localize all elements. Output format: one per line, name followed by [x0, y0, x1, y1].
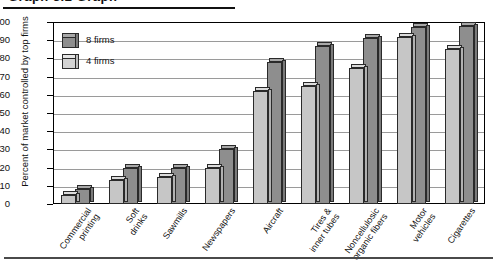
- legend-label-4-firms: 4 firms: [86, 55, 115, 66]
- y-axis-tick-label: 50: [0, 107, 10, 118]
- y-axis-tick-mark: [47, 204, 53, 205]
- bar-group: [341, 22, 389, 204]
- bar-group: [53, 22, 101, 204]
- cube-icon-8-firms: [62, 33, 79, 48]
- y-axis-tick-label: 60: [0, 89, 10, 100]
- bar-4-firms: [349, 68, 364, 205]
- cube-icon-4-firms: [62, 54, 79, 69]
- x-axis-label: Tires & inner tubes: [273, 206, 341, 270]
- y-axis-tick-label: 70: [0, 71, 10, 82]
- bar-4-firms: [445, 49, 460, 204]
- chart-figure: Graph 3.2 Graph Percent of market contro…: [0, 0, 497, 270]
- bar-group: [101, 22, 149, 204]
- cropped-title: Graph 3.2 Graph: [8, 0, 248, 7]
- bar-group: [389, 22, 437, 204]
- y-axis-tick-label: 30: [0, 143, 10, 154]
- bar-4-firms: [253, 91, 268, 204]
- bar-group: [197, 22, 245, 204]
- bar-group: [437, 22, 485, 204]
- y-axis-tick-label: 0: [0, 198, 10, 209]
- y-axis-tick-label: 90: [0, 34, 10, 45]
- footer-divider: [4, 257, 493, 259]
- bar-group: [245, 22, 293, 204]
- y-axis-tick-label: 40: [0, 125, 10, 136]
- y-axis-tick-label: 80: [0, 52, 10, 63]
- bar-4-firms: [61, 195, 76, 204]
- bar-groups: [53, 22, 485, 204]
- bar-group: [149, 22, 197, 204]
- bar-group: [293, 22, 341, 204]
- y-axis-tick-label: 20: [0, 162, 10, 173]
- y-axis-tick-label: 100: [0, 16, 10, 27]
- bar-4-firms: [109, 180, 124, 204]
- title-divider: [3, 7, 235, 9]
- legend-label-8-firms: 8 firms: [86, 34, 115, 45]
- bar-4-firms: [205, 168, 220, 204]
- bar-4-firms: [301, 86, 316, 204]
- bar-4-firms: [397, 37, 412, 204]
- bar-4-firms: [157, 177, 172, 204]
- y-axis-tick-label: 10: [0, 180, 10, 191]
- y-axis-title: Percent of market controlled by top firm…: [19, 4, 30, 200]
- x-axis-label: Commercial printing: [33, 206, 101, 270]
